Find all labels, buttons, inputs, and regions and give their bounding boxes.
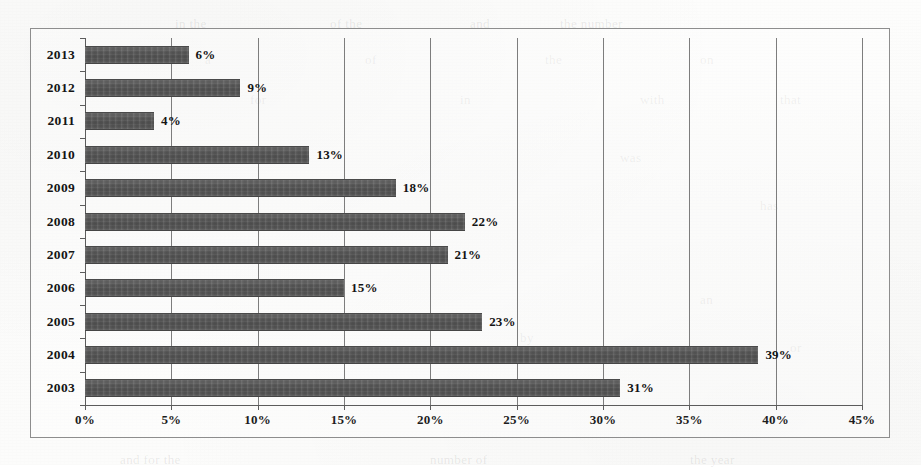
y-axis-category-labels: 2013201220112010200920082007200620052004…: [0, 0, 75, 465]
bar-value-label-2003: 31%: [627, 380, 654, 396]
x-tick-label-0: 0%: [75, 412, 95, 428]
ghost-text-21: the year: [690, 452, 735, 468]
bar-2010: [85, 146, 309, 164]
gridline-45: [862, 38, 863, 405]
bar-value-label-2009: 18%: [403, 180, 430, 196]
y-category-label-2003: 2003: [47, 380, 75, 396]
bar-value-label-2012: 9%: [247, 80, 267, 96]
bar-2012: [85, 79, 240, 97]
y-category-label-2005: 2005: [47, 314, 75, 330]
x-tick-label-40: 40%: [762, 412, 789, 428]
y-category-label-2006: 2006: [47, 280, 75, 296]
x-tick-label-45: 45%: [849, 412, 876, 428]
x-tick-label-35: 35%: [676, 412, 703, 428]
x-axis-line: [85, 405, 862, 406]
x-tick-10: [258, 405, 259, 410]
bar-2006: [85, 279, 344, 297]
x-tick-label-30: 30%: [590, 412, 617, 428]
y-category-label-2013: 2013: [47, 47, 75, 63]
y-category-label-2004: 2004: [47, 347, 75, 363]
bar-2013: [85, 46, 189, 64]
bar-2004: [85, 346, 758, 364]
x-tick-30: [603, 405, 604, 410]
bar-2011: [85, 112, 154, 130]
bar-value-label-2013: 6%: [196, 47, 216, 63]
x-tick-45: [862, 405, 863, 410]
x-tick-40: [776, 405, 777, 410]
y-category-label-2008: 2008: [47, 214, 75, 230]
bar-value-label-2006: 15%: [351, 280, 378, 296]
x-tick-25: [517, 405, 518, 410]
x-tick-0: [85, 405, 86, 410]
bar-2008: [85, 213, 465, 231]
y-category-label-2007: 2007: [47, 247, 75, 263]
ghost-text-20: number of: [430, 452, 487, 468]
x-tick-5: [171, 405, 172, 410]
x-tick-label-25: 25%: [503, 412, 530, 428]
ghost-text-19: and for the: [120, 452, 181, 468]
bar-2007: [85, 246, 448, 264]
y-category-label-2011: 2011: [48, 113, 75, 129]
x-tick-20: [430, 405, 431, 410]
x-tick-label-20: 20%: [417, 412, 444, 428]
bar-2009: [85, 179, 396, 197]
bar-value-label-2011: 4%: [161, 113, 181, 129]
bar-value-label-2004: 39%: [765, 347, 792, 363]
bar-value-label-2005: 23%: [489, 314, 516, 330]
bar-value-label-2007: 21%: [455, 247, 482, 263]
y-category-label-2012: 2012: [47, 80, 75, 96]
bar-2005: [85, 313, 482, 331]
x-tick-label-10: 10%: [244, 412, 271, 428]
x-tick-label-5: 5%: [161, 412, 181, 428]
x-tick-15: [344, 405, 345, 410]
bar-2003: [85, 379, 620, 397]
bar-value-label-2008: 22%: [472, 214, 499, 230]
x-tick-label-15: 15%: [331, 412, 358, 428]
y-category-label-2010: 2010: [47, 147, 75, 163]
bar-value-label-2010: 13%: [316, 147, 343, 163]
x-tick-35: [689, 405, 690, 410]
y-category-label-2009: 2009: [47, 180, 75, 196]
